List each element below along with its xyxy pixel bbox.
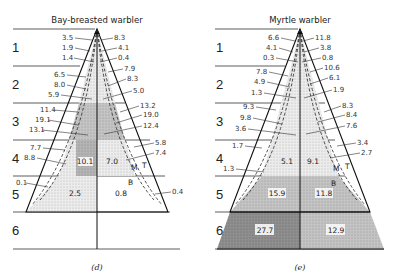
- value-label: 0.3: [263, 54, 274, 62]
- cell-value: 9.1: [307, 157, 319, 166]
- zone-label: 3: [12, 114, 19, 129]
- letter-b: B: [128, 178, 133, 187]
- value-label: 3.8: [320, 44, 331, 52]
- value-label: 2.7: [361, 149, 372, 157]
- panel-title: Bay-breasted warbler: [51, 15, 143, 25]
- zone-label: 6: [216, 223, 223, 238]
- value-label: 1.3: [251, 89, 262, 97]
- value-label: 3.6: [235, 125, 247, 133]
- value-label: 0.8: [322, 54, 333, 62]
- zone-label: 2: [216, 77, 223, 92]
- value-label: 11.8: [315, 34, 331, 42]
- value-label: 3.4: [357, 139, 369, 147]
- cell-value: 5.1: [281, 157, 293, 166]
- panel-myrtle: Myrtle warbler 1 2 3 4 5 6 6.6 4.: [215, 15, 384, 272]
- letter-t: T: [141, 161, 147, 170]
- value-label: 12.4: [143, 122, 159, 130]
- value-label: 7.7: [30, 144, 41, 152]
- value-label: 4.1: [118, 44, 129, 52]
- value-label: 7.6: [346, 122, 358, 130]
- panel-bay-breasted: Bay-breasted warbler 1 2 3 4 5 6: [12, 15, 184, 272]
- panel-title: Myrtle warbler: [269, 15, 331, 25]
- caption: (e): [295, 263, 306, 272]
- value-label: 0.4: [118, 54, 130, 62]
- cell-value: 2.5: [69, 189, 81, 198]
- value-label: 4.1: [266, 44, 277, 52]
- value-label: 3.5: [62, 34, 73, 42]
- zone-label: 5: [216, 187, 223, 202]
- caption: (d): [91, 263, 102, 272]
- value-label: 1.7: [232, 142, 243, 150]
- zone-label: 1: [216, 40, 223, 55]
- value-label: 6.6: [268, 34, 280, 42]
- zone-label: 3: [216, 114, 223, 129]
- cell-value: 0.8: [115, 189, 127, 198]
- value-label: 13.2: [140, 102, 156, 110]
- cell-value: 11.8: [316, 189, 333, 198]
- value-label: 10.6: [324, 64, 340, 72]
- value-label: 9.8: [240, 114, 251, 122]
- value-label: 1.4: [62, 54, 74, 62]
- value-label: 0.4: [172, 188, 184, 196]
- value-label: 8.0: [54, 81, 65, 89]
- value-label: 7.4: [155, 149, 167, 157]
- value-label: 8.3: [127, 75, 138, 83]
- cell-value: 10.1: [77, 157, 94, 166]
- value-label: 7.8: [256, 68, 267, 76]
- zone-label: 6: [12, 223, 19, 238]
- value-label: 9.3: [243, 103, 254, 111]
- letter-m: M: [333, 164, 339, 173]
- zone-label: 4: [12, 151, 19, 166]
- cell-value: 15.9: [269, 189, 286, 198]
- value-label: 5.9: [48, 91, 59, 99]
- letter-m: M: [131, 163, 137, 172]
- value-label: 1.9: [333, 86, 344, 94]
- value-label: 19.0: [143, 111, 159, 119]
- value-label: 6.1: [329, 74, 340, 82]
- value-label: 5.8: [155, 139, 166, 147]
- zone-label: 5: [12, 187, 19, 202]
- value-label: 1.3: [223, 165, 234, 173]
- letter-t: T: [344, 162, 350, 171]
- cell-value: 12.9: [328, 226, 345, 235]
- cell-value: 27.7: [257, 226, 274, 235]
- value-label: 8.3: [114, 34, 125, 42]
- cell-value: 7.0: [106, 157, 118, 166]
- zone-label: 1: [12, 40, 19, 55]
- value-label: 8.8: [24, 154, 35, 162]
- value-label: 7.9: [124, 65, 135, 73]
- value-label: 8.4: [346, 111, 358, 119]
- letter-b: B: [331, 179, 336, 188]
- value-label: 6.5: [54, 71, 65, 79]
- zone-label: 4: [216, 151, 223, 166]
- value-label: 1.9: [62, 44, 73, 52]
- value-label: 5.0: [133, 87, 144, 95]
- value-label: 8.3: [342, 102, 353, 110]
- value-label: 4.9: [254, 78, 265, 86]
- value-label: 0.1: [16, 179, 27, 187]
- zone-label: 2: [12, 77, 19, 92]
